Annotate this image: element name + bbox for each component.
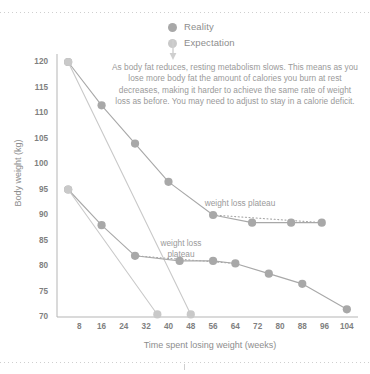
weight-loss-chart-figure: Reality Expectation As body fat reduces,… <box>0 0 370 374</box>
x-tick-label: 104 <box>336 322 358 331</box>
x-axis-tick-labels: 81624324048566472808896104 <box>0 0 370 374</box>
y-axis-title: Body weight (kg) <box>13 128 23 218</box>
x-tick-label: 96 <box>314 322 336 331</box>
x-tick-label: 32 <box>135 322 157 331</box>
x-tick-label: 72 <box>247 322 269 331</box>
x-tick-label: 64 <box>224 322 246 331</box>
x-tick-label: 88 <box>291 322 313 331</box>
x-tick-label: 56 <box>202 322 224 331</box>
x-tick-label: 80 <box>269 322 291 331</box>
x-tick-label: 48 <box>180 322 202 331</box>
x-tick-label: 40 <box>157 322 179 331</box>
x-tick-label: 8 <box>68 322 90 331</box>
x-tick-label: 16 <box>91 322 113 331</box>
x-axis-title: Time spent losing weight (weeks) <box>60 340 360 350</box>
x-tick-label: 24 <box>113 322 135 331</box>
